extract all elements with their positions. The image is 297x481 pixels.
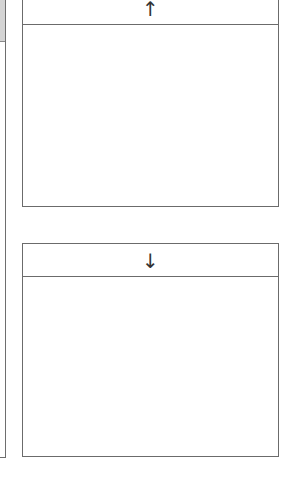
scroll-up-button[interactable]: ↑ xyxy=(23,0,278,25)
arrow-down-icon: ↓ xyxy=(142,251,159,271)
scroll-down-button[interactable]: ↓ xyxy=(23,244,278,277)
scroll-down-panel: ↓ xyxy=(22,243,279,457)
left-panel xyxy=(0,0,6,458)
screen: ↑ ↓ xyxy=(0,0,297,481)
left-scrollbar-thumb[interactable] xyxy=(0,0,5,42)
arrow-up-icon: ↑ xyxy=(142,0,159,19)
scroll-up-panel: ↑ xyxy=(22,0,279,207)
